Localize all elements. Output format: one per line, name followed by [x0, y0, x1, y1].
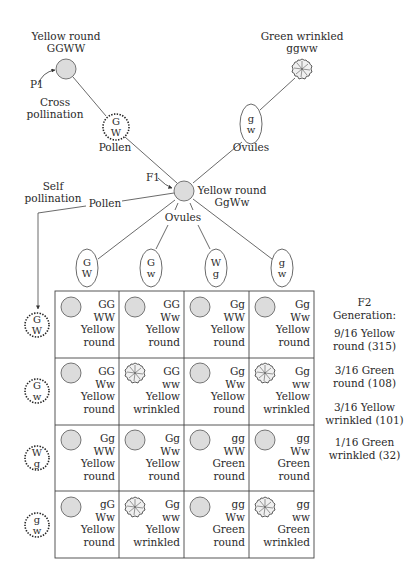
punnett-cell: GgwwYellowwrinkled — [249, 358, 314, 425]
allele: w — [141, 268, 161, 279]
punnett-cell: GgwwYellowwrinkled — [119, 491, 184, 558]
cell-text: ggWWGreenround — [212, 432, 245, 482]
genotype-text: WW — [212, 445, 245, 458]
p1-pollen-label: Pollen — [90, 141, 140, 153]
allele: W — [27, 325, 47, 336]
genotype-text: gg — [277, 432, 310, 445]
genotype-text: ww — [133, 511, 180, 524]
genotype-text: gG — [81, 498, 115, 511]
allele: G — [27, 380, 47, 391]
phenotype-text: Yellow — [146, 457, 180, 470]
allele: g — [27, 514, 47, 525]
f1-label: F1 — [146, 171, 160, 183]
punnett-cell: GgWwYellowround — [184, 358, 249, 425]
phenotype-text: Yellow — [133, 523, 180, 536]
cell-text: GGWWYellowround — [81, 298, 115, 348]
p1-yellow-round-label: Yellow round GGWW — [16, 30, 116, 54]
pollination-text: pollination — [20, 192, 86, 204]
phenotype-text: Yellow — [146, 323, 180, 336]
pollen-gamete-4: g w — [27, 514, 47, 536]
punnett-cell: GGWwYellowround — [119, 291, 184, 358]
cell-text: GgWWYellowround — [81, 432, 115, 482]
genotype-text: GG — [133, 365, 180, 378]
phenotype-text: Yellow round — [196, 184, 268, 196]
genotype-text: GG — [146, 298, 180, 311]
punnett-cell: ggWwGreenround — [249, 425, 314, 491]
p1-label: P1 — [30, 78, 44, 90]
phenotype-text: Green — [277, 457, 310, 470]
phenotype-text: round — [212, 536, 245, 549]
punnett-cell: gGWwYellowround — [55, 491, 119, 558]
allele: G — [106, 116, 126, 127]
cell-text: GgwwYellowwrinkled — [263, 365, 310, 415]
pollen-gamete-2: G w — [27, 380, 47, 402]
allele: W — [77, 268, 97, 279]
generation-text: Generation: — [318, 309, 411, 322]
phenotype-text: wrinkled — [133, 403, 180, 416]
allele: W — [27, 447, 47, 458]
cell-text: GgWwYellowround — [211, 365, 245, 415]
genotype-text: Ww — [146, 445, 180, 458]
phenotype-text: round — [81, 336, 115, 349]
allele: g — [241, 113, 261, 124]
f1-phenotype-label: Yellow round GgWw — [196, 184, 268, 208]
f2-ratio-1: 9/16 Yellow round (315) — [318, 327, 411, 352]
genotype-text: Ww — [211, 378, 245, 391]
phenotype-text: Yellow — [81, 523, 115, 536]
ovule-gamete-1: G W — [77, 257, 97, 279]
genotype-text: Ww — [146, 311, 180, 324]
genotype-text: gg — [212, 498, 245, 511]
phenotype-text: Yellow round — [16, 30, 116, 42]
punnett-cell: GgWWYellowround — [184, 291, 249, 358]
genotype-text: GGWW — [16, 42, 116, 54]
cell-text: ggWwGreenround — [277, 432, 310, 482]
phenotype-text: Yellow — [263, 390, 310, 403]
genotype-text: Gg — [211, 365, 245, 378]
f2-ratio-4: 1/16 Green wrinkled (32) — [318, 436, 411, 461]
pollen-gamete-3: W g — [27, 447, 47, 469]
genotype-text: Gg — [211, 298, 245, 311]
punnett-cell: GGWwYellowround — [55, 358, 119, 425]
p1-pollen-gamete: G W — [106, 116, 126, 138]
allele: w — [272, 268, 292, 279]
phenotype-text: round — [211, 336, 245, 349]
genotype-text: WW — [81, 311, 115, 324]
genotype-text: WW — [211, 311, 245, 324]
genotype-text: Ww — [276, 311, 310, 324]
phenotype-text: round — [211, 403, 245, 416]
ratio-line: round (315) — [318, 340, 411, 353]
phenotype-text: Green — [212, 523, 245, 536]
genotype-text: Ww — [277, 445, 310, 458]
genotype-text: gg — [263, 498, 310, 511]
punnett-cell: GgWWYellowround — [55, 425, 119, 491]
cell-text: ggwwGreenwrinkled — [263, 498, 310, 548]
genotype-text: GgWw — [196, 196, 268, 208]
phenotype-text: round — [81, 403, 115, 416]
allele: G — [77, 257, 97, 268]
genotype-text: Ww — [212, 511, 245, 524]
phenotype-text: round — [277, 470, 310, 483]
cell-text: GgWWYellowround — [211, 298, 245, 348]
phenotype-text: wrinkled — [133, 536, 180, 549]
punnett-cell: GGWWYellowround — [55, 291, 119, 358]
cell-text: GgwwYellowwrinkled — [133, 498, 180, 548]
punnett-cell: GgWwYellowround — [249, 291, 314, 358]
punnett-cell: ggWWGreenround — [184, 425, 249, 491]
allele: g — [272, 257, 292, 268]
p1-ovule-gamete: g w — [241, 113, 261, 135]
genotype-text: ww — [133, 378, 180, 391]
allele: w — [27, 391, 47, 402]
cell-text: GGWwYellowround — [81, 365, 115, 415]
phenotype-text: wrinkled — [263, 403, 310, 416]
phenotype-text: Yellow — [81, 457, 115, 470]
phenotype-text: round — [146, 470, 180, 483]
f2-ratio-2: 3/16 Green round (108) — [318, 364, 411, 389]
ovule-gamete-4: g w — [272, 257, 292, 279]
ratio-line: 3/16 Yellow — [318, 401, 411, 414]
genotype-text: Gg — [146, 432, 180, 445]
phenotype-text: Green wrinkled — [252, 30, 352, 42]
punnett-cell: ggWwGreenround — [184, 491, 249, 558]
phenotype-text: Yellow — [276, 323, 310, 336]
genotype-text: Ww — [81, 511, 115, 524]
phenotype-text: Green — [212, 457, 245, 470]
